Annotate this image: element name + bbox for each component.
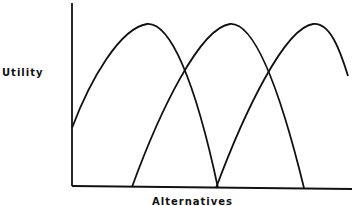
x-axis-label: Alternatives: [152, 196, 233, 206]
utility-chart: [0, 0, 352, 206]
utility-curve-2: [132, 24, 304, 188]
utility-curve-1: [72, 24, 218, 188]
x-axis: [72, 186, 352, 189]
y-axis-label: Utility: [2, 67, 43, 78]
